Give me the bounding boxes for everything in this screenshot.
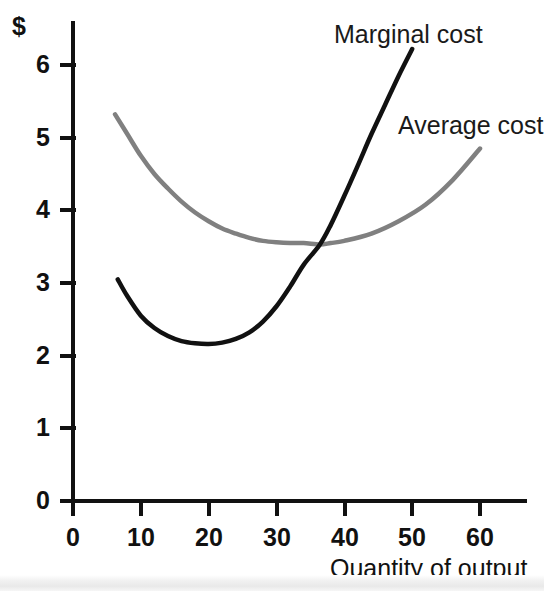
bottom-page-strip bbox=[0, 575, 544, 591]
y-axis-unit-label: $ bbox=[12, 14, 26, 39]
x-tick-label-0: 0 bbox=[59, 525, 87, 550]
series-label-marginal-cost: Marginal cost bbox=[334, 22, 483, 47]
axis-lines bbox=[60, 21, 527, 503]
x-axis-ticks bbox=[73, 493, 480, 516]
y-tick-label-4: 4 bbox=[31, 197, 55, 222]
series-label-average-cost: Average cost bbox=[398, 113, 543, 138]
x-tick-label-60: 60 bbox=[459, 525, 501, 550]
chart-canvas bbox=[0, 0, 544, 591]
x-tick-label-10: 10 bbox=[120, 525, 162, 550]
x-tick-label-30: 30 bbox=[256, 525, 298, 550]
x-tick-label-40: 40 bbox=[324, 525, 366, 550]
y-tick-label-0: 0 bbox=[31, 488, 55, 513]
y-tick-label-5: 5 bbox=[31, 125, 55, 150]
x-tick-label-50: 50 bbox=[391, 525, 433, 550]
marginal-cost-curve bbox=[118, 49, 412, 344]
y-tick-label-6: 6 bbox=[31, 52, 55, 77]
x-tick-label-20: 20 bbox=[188, 525, 230, 550]
y-tick-label-3: 3 bbox=[31, 270, 55, 295]
y-tick-label-2: 2 bbox=[31, 343, 55, 368]
y-tick-label-1: 1 bbox=[31, 415, 55, 440]
cost-curves-figure: $ 6 5 4 3 2 1 0 0 10 20 30 40 50 60 Marg… bbox=[0, 0, 544, 591]
